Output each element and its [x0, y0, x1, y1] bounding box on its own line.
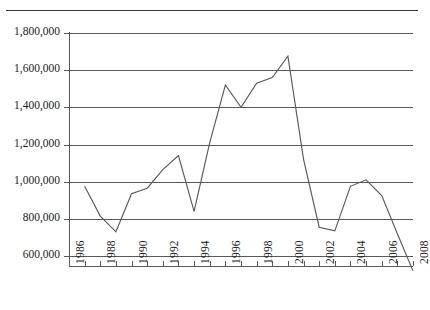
- x-tick-2000: [288, 261, 289, 266]
- x-tick-1992: [163, 261, 164, 266]
- plot-area: [69, 33, 413, 256]
- x-axis-tick-label: 1992: [168, 240, 180, 264]
- x-tick-1986: [69, 261, 70, 266]
- y-tick-1200000: [64, 145, 69, 146]
- x-axis-tick-label: 1998: [262, 240, 274, 264]
- y-axis-tick-label: 600,000: [0, 248, 60, 260]
- x-axis-tick-label: 1994: [199, 240, 211, 264]
- y-tick-600000: [64, 256, 69, 257]
- x-axis-tick-label: 2002: [324, 240, 336, 264]
- x-axis-tick-label: 2000: [293, 240, 305, 264]
- x-tick-1994: [194, 261, 195, 266]
- x-tick-2008: [413, 261, 414, 266]
- x-axis: [69, 266, 413, 267]
- x-axis-tick-label: 1988: [105, 240, 117, 264]
- top-horizontal-rule: [6, 10, 418, 11]
- line-series: [69, 33, 413, 256]
- x-tick-2004: [350, 261, 351, 266]
- x-tick-1998: [257, 261, 258, 266]
- y-axis-tick-label: 1,800,000: [0, 25, 60, 37]
- y-axis-tick-label: 1,200,000: [0, 137, 60, 149]
- y-axis-tick-label: 1,600,000: [0, 62, 60, 74]
- x-axis-tick-label: 1986: [74, 240, 86, 264]
- y-axis-tick-label: 1,000,000: [0, 174, 60, 186]
- x-axis-tick-label: 2008: [418, 240, 430, 264]
- x-tick-1988: [100, 261, 101, 266]
- x-tick-1990: [132, 261, 133, 266]
- y-axis-tick-label: 800,000: [0, 211, 60, 223]
- x-axis-tick-label: 2006: [387, 240, 399, 264]
- y-axis-line: [69, 32, 70, 267]
- x-tick-2006: [382, 261, 383, 266]
- x-tick-1996: [225, 261, 226, 266]
- y-tick-1000000: [64, 182, 69, 183]
- y-tick-1400000: [64, 107, 69, 108]
- x-axis-tick-label: 1996: [230, 240, 242, 264]
- y-axis-tick-label: 1,400,000: [0, 99, 60, 111]
- data-polyline: [85, 56, 413, 271]
- y-tick-800000: [64, 219, 69, 220]
- x-axis-tick-label: 1990: [137, 240, 149, 264]
- y-tick-1600000: [64, 70, 69, 71]
- x-tick-2002: [319, 261, 320, 266]
- x-axis-line: [69, 266, 413, 267]
- y-tick-1800000: [64, 33, 69, 34]
- x-axis-tick-label: 2004: [355, 240, 367, 264]
